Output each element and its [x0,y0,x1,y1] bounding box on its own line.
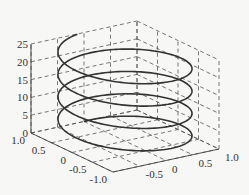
z-tick-label: 15 [17,74,29,86]
helix-3d-plot: 05101520251.00.50-0.5-1.0-0.500.51.0 [0,0,249,195]
x-tick-label: 1.0 [225,151,239,163]
axes-box [31,44,219,172]
y-tick-label: 0 [61,154,67,166]
z-tick-label: 20 [17,56,29,68]
z-tick-label: 5 [23,109,29,121]
z-tick-label: 25 [17,38,29,50]
y-tick-label: -1.0 [90,173,108,185]
x-tick-label: -0.5 [146,168,164,180]
x-tick-label: 0 [172,163,178,175]
x-tick-label: 0.5 [199,157,213,169]
y-tick-label: -0.5 [69,163,87,175]
y-tick-label: 0.5 [32,144,46,156]
z-tick-label: 10 [17,91,29,103]
helix-curve [58,34,192,151]
y-tick-label: 1.0 [11,134,25,146]
tick-labels: 05101520251.00.50-0.5-1.0-0.500.51.0 [11,38,239,185]
